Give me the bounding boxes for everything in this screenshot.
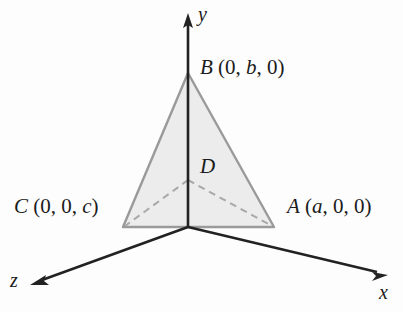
point-c-coord-3: c (82, 194, 91, 218)
point-a-coord-1: a (312, 194, 323, 218)
z-axis-label: z (10, 270, 18, 290)
point-c-coord-2: 0 (61, 194, 72, 218)
point-c-coord-1: 0 (40, 194, 51, 218)
point-b-coord-3: 0 (267, 55, 278, 79)
point-c-label: C (0, 0, c) (14, 196, 99, 217)
point-c-paren-close: ) (92, 194, 99, 218)
point-a-label: A (a, 0, 0) (287, 196, 372, 217)
point-b-coord-1: 0 (225, 55, 236, 79)
x-axis-label: x (379, 282, 388, 302)
point-a-coord-2: 0 (333, 194, 344, 218)
point-b-paren-close: ) (278, 55, 285, 79)
point-c-letter: C (14, 194, 28, 218)
z-axis-line (42, 227, 188, 280)
point-a-letter: A (287, 194, 300, 218)
z-axis-arrowhead (30, 275, 49, 285)
triangle-abc-shaded-region (123, 73, 274, 227)
point-d-label: D (200, 156, 215, 177)
figure-container: y x z B (0, b, 0) C (0, 0, c) A (a, 0, 0… (0, 0, 403, 312)
point-a-paren-close: ) (365, 194, 372, 218)
point-b-label: B (0, b, 0) (200, 57, 285, 78)
x-axis-line (188, 227, 377, 272)
point-b-letter: B (200, 55, 213, 79)
point-b-coord-2: b (246, 55, 257, 79)
x-axis-arrowhead (372, 272, 388, 281)
point-a-coord-3: 0 (354, 194, 365, 218)
y-axis-label: y (198, 4, 207, 24)
